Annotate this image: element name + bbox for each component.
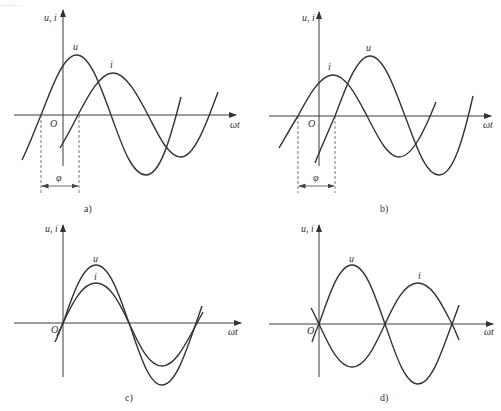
curve-i: [57, 283, 203, 366]
label-i: i: [418, 270, 421, 281]
origin-label: O: [50, 118, 57, 129]
x-axis-label: ωt: [228, 326, 238, 337]
caption-d: d): [380, 392, 388, 404]
x-axis-label: ωt: [483, 119, 493, 130]
x-axis-label: ωt: [230, 119, 240, 130]
label-u: u: [349, 253, 354, 264]
caption-b: b): [380, 203, 388, 215]
top-text-fragment: ……: [2, 0, 20, 8]
caption-c: c): [125, 392, 133, 404]
y-axis-label: u, i: [302, 12, 315, 23]
origin-label: O: [308, 118, 315, 129]
phase-diagram-figure: …… u i O ωt u, i φ a) i u O ωt u, i φ: [0, 0, 501, 411]
curve-u: [55, 265, 202, 385]
label-u: u: [73, 41, 78, 52]
phase-label: φ: [56, 172, 62, 183]
y-axis-label: u, i: [301, 223, 314, 234]
y-axis-label: u, i: [45, 223, 58, 234]
panel-c: u i O ωt u, i c): [14, 223, 241, 404]
label-i: i: [110, 59, 113, 70]
label-u: u: [93, 253, 98, 264]
label-i: i: [328, 61, 331, 72]
panel-a: u i O ωt u, i φ a): [14, 10, 240, 215]
phase-label: φ: [313, 172, 319, 183]
panel-d: u i O ωt u, i d): [269, 223, 494, 404]
x-axis-label: ωt: [484, 326, 494, 337]
panel-b: i u O ωt u, i φ b): [269, 12, 493, 215]
label-i: i: [94, 271, 97, 282]
label-u: u: [366, 42, 371, 53]
origin-label: O: [51, 324, 58, 335]
origin-label: O: [307, 325, 314, 336]
curve-i: [311, 283, 459, 367]
caption-a: a): [84, 203, 92, 215]
y-axis-label: u, i: [44, 12, 57, 23]
